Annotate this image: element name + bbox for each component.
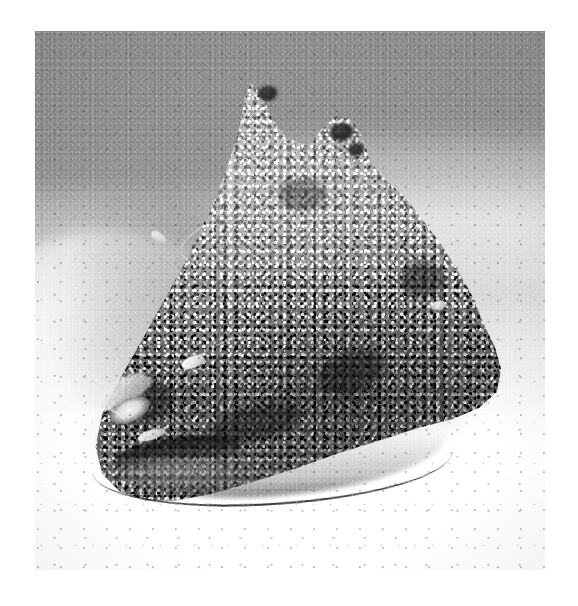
flank-blotch bbox=[278, 179, 326, 211]
page-root bbox=[0, 0, 578, 606]
dorsal-spine-secondary bbox=[330, 123, 354, 141]
flank-blotch bbox=[400, 261, 444, 297]
stonefish bbox=[76, 80, 515, 533]
photograph bbox=[35, 31, 545, 570]
skin-fleck bbox=[150, 229, 169, 247]
dorsal-spine-primary bbox=[258, 86, 278, 100]
